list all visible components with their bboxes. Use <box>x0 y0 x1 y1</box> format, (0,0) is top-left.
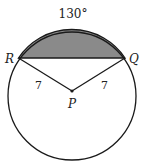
circle-diagram: 130° R Q P 7 7 <box>0 0 147 165</box>
radius-label-right: 7 <box>101 79 108 92</box>
point-P-label: P <box>67 97 77 111</box>
point-R-label: R <box>4 52 14 66</box>
center-point <box>70 89 73 92</box>
radius-PQ <box>72 58 125 91</box>
radius-PR <box>19 58 73 91</box>
arc-label: 130° <box>59 7 88 21</box>
point-Q-label: Q <box>129 52 139 66</box>
radius-label-left: 7 <box>35 79 42 92</box>
